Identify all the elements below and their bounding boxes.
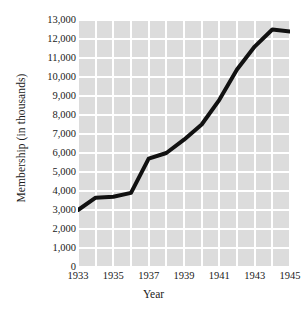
membership-line-chart: Membership (in thousands) 01,0002,0003,0… [0, 0, 307, 318]
y-axis-tick-label: 5,000 [52, 167, 76, 178]
y-axis-tick-label: 9,000 [52, 91, 76, 102]
y-axis-tick-label: 13,000 [47, 15, 76, 26]
y-axis-tick-label: 6,000 [52, 148, 76, 159]
x-axis-tick-label: 1939 [174, 270, 195, 283]
x-axis-tick-label: 1937 [138, 270, 159, 283]
y-axis-tick-label: 7,000 [52, 129, 76, 140]
y-axis-tick-label: 3,000 [52, 205, 76, 216]
x-axis-tick-label: 1935 [103, 270, 124, 283]
y-axis-tick-label: 8,000 [52, 110, 76, 121]
x-axis-tick-labels: 1933193519371939194119431945 [0, 270, 307, 286]
plot-area [78, 20, 290, 267]
y-axis-tick-label: 4,000 [52, 186, 76, 197]
y-axis-tick-labels: 01,0002,0003,0004,0005,0006,0007,0008,00… [30, 14, 76, 268]
data-series-line [78, 20, 290, 267]
x-axis-tick-label: 1933 [68, 270, 89, 283]
x-axis-tick-label: 1945 [280, 270, 301, 283]
x-axis-tick-label: 1943 [244, 270, 265, 283]
y-axis-tick-label: 2,000 [52, 224, 76, 235]
y-axis-tick-label: 10,000 [47, 72, 76, 83]
x-axis-tick-label: 1941 [209, 270, 230, 283]
y-axis-tick-label: 11,000 [48, 53, 77, 64]
x-axis-label: Year [0, 288, 307, 300]
y-axis-tick-label: 1,000 [52, 243, 76, 254]
y-axis-label-text: Membership (in thousands) [15, 73, 27, 202]
y-axis-tick-label: 12,000 [47, 34, 76, 45]
